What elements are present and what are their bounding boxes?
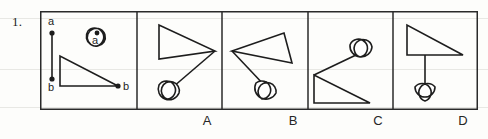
option-c-panel[interactable] <box>314 39 372 103</box>
option-labels-row: A B C D <box>40 113 478 135</box>
option-c-connector <box>314 55 356 75</box>
option-label-d[interactable]: D <box>448 113 478 128</box>
segment-endpoint-a-dot <box>49 30 54 35</box>
option-c-cloud <box>350 39 372 57</box>
option-a-cloud <box>158 81 179 100</box>
option-a-panel[interactable] <box>158 25 215 100</box>
segment-label-a: a <box>48 15 55 27</box>
figure-frame: a b a b <box>40 11 478 110</box>
option-b-cloud <box>255 81 276 99</box>
question-number: 1. <box>12 14 22 30</box>
option-b-panel[interactable] <box>232 33 292 99</box>
cloud-point-a-label: a <box>92 34 99 46</box>
cloud-shape-with-point-a: a <box>86 28 105 46</box>
segment-label-b: b <box>48 81 54 93</box>
triangle-outline <box>60 56 118 86</box>
option-label-a[interactable]: A <box>192 113 222 128</box>
option-d-panel[interactable] <box>407 25 463 101</box>
option-a-triangle <box>159 25 215 59</box>
triangle-point-b-dot <box>115 83 120 88</box>
option-d-triangle <box>407 25 463 55</box>
option-d-cloud <box>415 83 435 101</box>
option-label-c[interactable]: C <box>363 113 393 128</box>
option-c-triangle <box>314 75 370 103</box>
option-label-b[interactable]: B <box>278 113 308 128</box>
line-segment-ab: a b <box>48 15 55 93</box>
option-b-triangle <box>232 33 292 63</box>
stimulus-panel: a b a b <box>48 15 129 93</box>
right-triangle-with-point-b: b <box>60 56 129 92</box>
triangle-point-b-label: b <box>123 80 129 92</box>
panels-diagram: a b a b <box>40 11 478 110</box>
